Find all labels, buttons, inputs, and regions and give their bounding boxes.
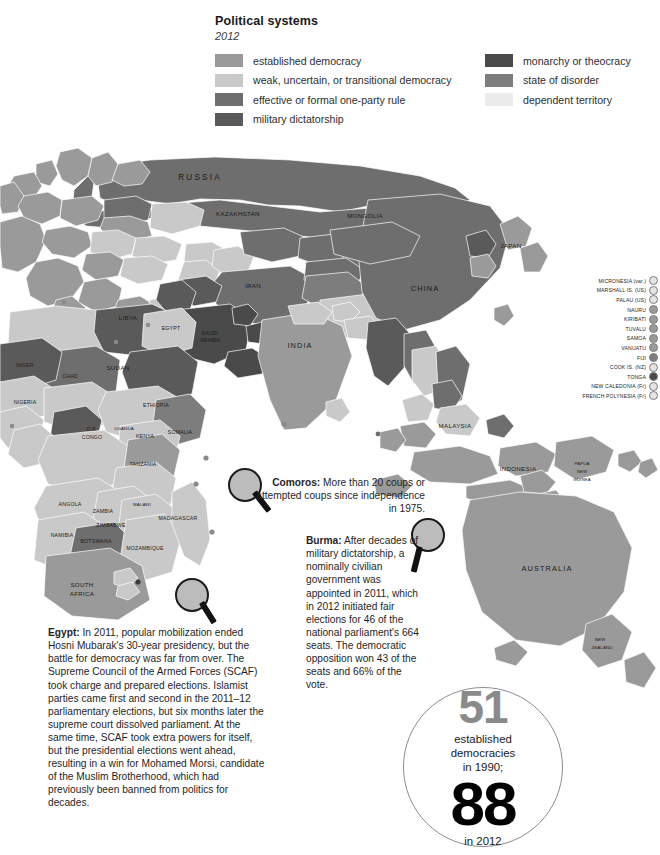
map-country-label: INDIA <box>287 341 312 350</box>
island-name: FIJI <box>637 355 646 361</box>
island-list-item: NEW CALEDONIA (Fr) <box>540 382 658 392</box>
map-country-label: NEW <box>577 469 588 474</box>
island-color-dot <box>649 334 658 343</box>
legend-swatch <box>485 74 513 87</box>
island-name: PALAU (US) <box>616 297 646 303</box>
map-country-label: MOZAMBIQUE <box>126 545 163 551</box>
map-country-label: ZIMBABWE <box>96 522 125 528</box>
legend-item[interactable]: established democracy <box>215 51 451 71</box>
island-name: KIRIBATI <box>624 316 646 322</box>
callout-burma-body: After decades of military dictatorship, … <box>306 535 419 690</box>
legend-item-label: dependent territory <box>523 94 612 106</box>
legend-item[interactable]: state of disorder <box>485 71 631 91</box>
island-list-item: MARSHALL IS. (US) <box>540 286 658 296</box>
legend-column-left: established democracyweak, uncertain, or… <box>215 51 451 129</box>
legend-item-label: state of disorder <box>523 74 599 86</box>
legend-swatch <box>485 93 513 106</box>
island-color-dot <box>649 353 658 362</box>
callout-comoros: Comoros: More than 20 coups or attempted… <box>247 476 425 515</box>
island-name: FRENCH POLYNESIA (Fr) <box>582 393 646 399</box>
island-color-dot <box>649 363 658 372</box>
count-2012: 88 <box>451 777 516 831</box>
island-list-item: SAMOA <box>540 334 658 344</box>
callout-egypt: Egypt: In 2011, popular mobilization end… <box>48 626 266 809</box>
island-list-item: KIRIBATI <box>540 314 658 324</box>
legend-swatch <box>215 113 243 126</box>
map-country-label: EGYPT <box>162 325 181 331</box>
map-country-label: D.R. <box>86 426 97 432</box>
legend-item-label: monarchy or theocracy <box>523 55 631 67</box>
count-1990-caption: established democracies in 1990; <box>451 732 516 775</box>
legend-column-right: monarchy or theocracystate of disorderde… <box>485 51 631 110</box>
island-list-item: NAURU <box>540 305 658 315</box>
island-list-item: MICRONESIA (var.) <box>540 276 658 286</box>
legend-swatch <box>215 74 243 87</box>
legend-item-label: military dictatorship <box>253 113 344 125</box>
island-name: SAMOA <box>627 335 646 341</box>
map-country-label: ZAMBIA <box>93 508 114 514</box>
island-color-dot <box>649 372 658 381</box>
map-country-label: IRAN <box>245 282 261 289</box>
map-country-label: GUINEA <box>573 477 590 482</box>
island-color-dot <box>649 391 658 400</box>
island-color-dot <box>649 315 658 324</box>
map-country-label: ARABIA <box>200 337 220 343</box>
legend-item[interactable]: military dictatorship <box>215 110 451 130</box>
legend-item-label: effective or formal one-party rule <box>253 94 405 106</box>
legend-swatch <box>215 54 243 67</box>
map-country-label: MALAYSIA <box>439 422 472 429</box>
island-name: COOK IS. (NZ) <box>610 364 646 370</box>
map-country-label: NIGERIA <box>14 399 37 405</box>
map-country-label: NIGER <box>16 362 33 368</box>
island-name: MARSHALL IS. (US) <box>597 287 646 293</box>
island-name: NEW CALEDONIA (Fr) <box>591 383 646 389</box>
map-country-label: INDONESIA <box>500 465 537 472</box>
map-country-label: MADAGASCAR <box>159 515 198 521</box>
map-country-label: SAUDI <box>202 330 219 336</box>
map-country-label: NAMIBIA <box>51 532 74 538</box>
island-list-item: FRENCH POLYNESIA (Fr) <box>540 391 658 401</box>
legend-item[interactable]: monarchy or theocracy <box>485 51 631 71</box>
pacific-island-list: MICRONESIA (var.)MARSHALL IS. (US)PALAU … <box>540 276 658 401</box>
map-country-label: CHAD <box>62 373 78 379</box>
legend-item[interactable]: effective or formal one-party rule <box>215 90 451 110</box>
island-color-dot <box>649 276 658 285</box>
callout-burma: Burma: After decades of military dictato… <box>306 534 424 691</box>
map-country-label: SUDAN <box>106 364 129 371</box>
island-color-dot <box>649 382 658 391</box>
legend-item[interactable]: weak, uncertain, or transitional democra… <box>215 71 451 91</box>
callout-comoros-title: Comoros: <box>272 477 320 488</box>
island-name: VANUATU <box>621 345 646 351</box>
legend-item[interactable]: dependent territory <box>485 90 631 110</box>
island-name: MICRONESIA (var.) <box>598 278 646 284</box>
map-country-label: CONGO <box>82 434 103 440</box>
island-list-item: TUVALU <box>540 324 658 334</box>
map-country-label: ANGOLA <box>59 501 82 507</box>
island-name: TUVALU <box>625 326 646 332</box>
map-country-label: AUSTRALIA <box>522 564 573 573</box>
map-country-label: KENYA <box>136 433 154 439</box>
map-country-label: BOTSWANA <box>80 538 111 544</box>
caption-line-2: democracies <box>451 746 516 760</box>
island-list-item: COOK IS. (NZ) <box>540 362 658 372</box>
map-country-label: PAPUA <box>574 461 589 466</box>
island-color-dot <box>649 305 658 314</box>
island-list-item: FIJI <box>540 353 658 363</box>
legend-item-label: weak, uncertain, or transitional democra… <box>253 74 451 86</box>
callout-egypt-body: In 2011, popular mobilization ended Hosn… <box>48 627 264 808</box>
map-country-label: ZEALAND <box>592 645 613 650</box>
map-country-label: JAPAN <box>501 242 522 249</box>
magnifier-handle <box>199 601 217 625</box>
caption-line-1: established <box>451 732 516 746</box>
map-country-label: TANZANIA <box>130 461 157 467</box>
island-list-item: TONGA <box>540 372 658 382</box>
legend-swatch <box>485 54 513 67</box>
map-country-label: AFRICA <box>70 590 95 597</box>
island-name: NAURU <box>627 307 646 313</box>
map-country-label: MONGOLIA <box>347 212 383 219</box>
legend-year: 2012 <box>215 30 655 42</box>
count-2012-caption: in 2012 <box>464 835 501 847</box>
island-name: TONGA <box>627 374 646 380</box>
map-country-label: LIBYA <box>119 314 138 321</box>
map-legend: Political systems 2012 established democ… <box>215 14 655 129</box>
